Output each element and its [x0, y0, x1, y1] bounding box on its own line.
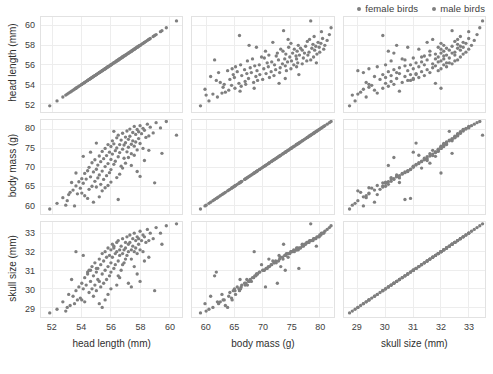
legend-dot-icon — [357, 7, 361, 11]
legend: female birds male birds — [357, 3, 485, 14]
y-tick-label: 52 — [25, 100, 35, 110]
x-tick-label: 80 — [315, 322, 325, 332]
panel-skull_size-vs-skull_size[interactable] — [343, 221, 486, 318]
panel-body_mass-vs-skull_size[interactable] — [343, 119, 486, 216]
legend-entry-male[interactable]: male birds — [432, 3, 485, 14]
x-tick-label: 70 — [258, 322, 268, 332]
x-axis-ticks-skull_size: 2930313233 — [343, 322, 486, 336]
panel-skull_size-vs-head_length[interactable] — [40, 221, 183, 318]
legend-label-male: male birds — [440, 3, 485, 14]
y-tick-label: 29 — [25, 304, 35, 314]
x-axis-ticks-body_mass: 6065707580 — [191, 322, 334, 336]
legend-label-female: female birds — [365, 3, 418, 14]
panel-head_length-vs-skull_size[interactable] — [343, 16, 486, 113]
y-tick-label: 32 — [25, 247, 35, 257]
x-tick-label: 75 — [287, 322, 297, 332]
y-tick-label: 58 — [25, 40, 35, 50]
panel-head_length-vs-head_length[interactable] — [40, 16, 183, 113]
y-tick-label: 56 — [25, 60, 35, 70]
y-tick-label: 70 — [25, 162, 35, 172]
panel-skull_size-vs-body_mass[interactable] — [191, 221, 334, 318]
y-tick-label: 75 — [25, 143, 35, 153]
y-axis-title-skull_size: skull size (mm) — [7, 218, 18, 318]
scatterplot-matrix-figure: female birds male birds 5254565860head l… — [0, 0, 493, 374]
x-axis-title-body_mass: body mass (g) — [191, 338, 334, 349]
panel-body_mass-vs-head_length[interactable] — [40, 119, 183, 216]
x-axis-title-head_length: head length (mm) — [40, 338, 183, 349]
x-tick-label: 54 — [76, 322, 86, 332]
panel-body_mass-vs-body_mass[interactable] — [191, 119, 334, 216]
x-tick-label: 30 — [380, 322, 390, 332]
y-tick-label: 30 — [25, 285, 35, 295]
x-tick-label: 29 — [352, 322, 362, 332]
legend-entry-female[interactable]: female birds — [357, 3, 418, 14]
x-tick-label: 65 — [229, 322, 239, 332]
x-tick-label: 58 — [135, 322, 145, 332]
panel-head_length-vs-body_mass[interactable] — [191, 16, 334, 113]
y-tick-label: 31 — [25, 266, 35, 276]
x-tick-label: 60 — [165, 322, 175, 332]
y-tick-label: 80 — [25, 123, 35, 133]
y-tick-label: 60 — [25, 201, 35, 211]
y-tick-label: 60 — [25, 20, 35, 30]
y-tick-label: 65 — [25, 181, 35, 191]
x-tick-label: 31 — [408, 322, 418, 332]
x-tick-label: 56 — [106, 322, 116, 332]
x-axis-title-skull_size: skull size (mm) — [343, 338, 486, 349]
x-tick-label: 33 — [464, 322, 474, 332]
panel-matrix — [40, 16, 486, 318]
y-axis-title-head_length: head length (mm) — [7, 13, 18, 113]
x-axis-ticks-head_length: 5254565860 — [40, 322, 183, 336]
y-tick-label: 33 — [25, 228, 35, 238]
y-axis-title-body_mass: body mass (g) — [7, 116, 18, 216]
x-tick-label: 32 — [436, 322, 446, 332]
y-tick-label: 54 — [25, 80, 35, 90]
x-tick-label: 52 — [47, 322, 57, 332]
x-tick-label: 60 — [201, 322, 211, 332]
legend-dot-icon — [432, 7, 436, 11]
